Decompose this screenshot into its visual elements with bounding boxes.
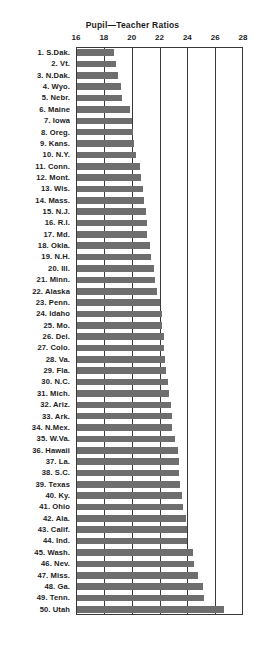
chart-title: Pupil—Teacher Ratios bbox=[60, 20, 205, 30]
bar-row-label: 34. N.Mex. bbox=[0, 422, 70, 433]
bar-row-label: 33. Ark. bbox=[0, 411, 70, 422]
bar-row: 17. Md. bbox=[0, 229, 263, 240]
bar-row: 2. Vt. bbox=[0, 58, 263, 69]
bar-row: 26. Del. bbox=[0, 331, 263, 342]
bar bbox=[77, 549, 193, 556]
bar bbox=[77, 526, 187, 533]
bar-row: 5. Nebr. bbox=[0, 92, 263, 103]
bar bbox=[77, 83, 121, 90]
bar-row: 40. Ky. bbox=[0, 490, 263, 501]
bar bbox=[77, 174, 141, 181]
bar bbox=[77, 515, 186, 522]
bar-row: 14. Mass. bbox=[0, 195, 263, 206]
bar-row-label: 22. Alaska bbox=[0, 286, 70, 297]
bar bbox=[77, 220, 147, 227]
bar-row: 45. Wash. bbox=[0, 547, 263, 558]
bar bbox=[77, 49, 114, 56]
bar-row: 28. Va. bbox=[0, 354, 263, 365]
bar-row: 23. Penn. bbox=[0, 297, 263, 308]
bar-row: 21. Minn. bbox=[0, 274, 263, 285]
bar-row: 39. Texas bbox=[0, 479, 263, 490]
x-tick-label-20: 20 bbox=[127, 33, 136, 42]
bar-row-label: 39. Texas bbox=[0, 479, 70, 490]
bar bbox=[77, 277, 155, 284]
bar-row-label: 4. Wyo. bbox=[0, 81, 70, 92]
bar bbox=[77, 345, 164, 352]
bar-row: 18. Okla. bbox=[0, 240, 263, 251]
bar bbox=[77, 242, 150, 249]
bar-row-label: 38. S.C. bbox=[0, 467, 70, 478]
bar-row-label: 46. Nev. bbox=[0, 558, 70, 569]
bar-row-label: 36. Hawaii bbox=[0, 445, 70, 456]
x-tick-label-16: 16 bbox=[72, 33, 81, 42]
bar-row: 6. Maine bbox=[0, 104, 263, 115]
bar bbox=[77, 561, 194, 568]
bar-row-label: 11. Conn. bbox=[0, 161, 70, 172]
pupil-teacher-ratios-chart: Pupil—Teacher Ratios 16182022242628 1. S… bbox=[0, 0, 263, 645]
bar-row-label: 21. Minn. bbox=[0, 274, 70, 285]
bar-row: 9. Kans. bbox=[0, 138, 263, 149]
bar-row: 8. Oreg. bbox=[0, 127, 263, 138]
bar bbox=[77, 447, 178, 454]
bar bbox=[77, 436, 175, 443]
bar bbox=[77, 231, 147, 238]
bar-row-label: 44. Ind. bbox=[0, 535, 70, 546]
bar-row: 22. Alaska bbox=[0, 286, 263, 297]
bar-row: 19. N.H. bbox=[0, 251, 263, 262]
bar-row: 50. Utah bbox=[0, 604, 263, 615]
bar-row-label: 27. Colo. bbox=[0, 342, 70, 353]
bar-row: 1. S.Dak. bbox=[0, 47, 263, 58]
bar bbox=[77, 356, 165, 363]
x-tick-label-26: 26 bbox=[211, 33, 220, 42]
bar bbox=[77, 288, 157, 295]
bar bbox=[77, 538, 187, 545]
bar-row-label: 18. Okla. bbox=[0, 240, 70, 251]
bar bbox=[77, 413, 172, 420]
bar-row-label: 35. W.Va. bbox=[0, 433, 70, 444]
bar bbox=[77, 140, 134, 147]
bar-row: 47. Miss. bbox=[0, 570, 263, 581]
bar bbox=[77, 606, 224, 613]
x-axis-tick-labels: 16182022242628 bbox=[0, 33, 263, 45]
bar bbox=[77, 322, 162, 329]
bar bbox=[77, 492, 182, 499]
bar bbox=[77, 583, 203, 590]
x-tick-label-18: 18 bbox=[99, 33, 108, 42]
bar-row-label: 42. Ala. bbox=[0, 513, 70, 524]
bar-row: 11. Conn. bbox=[0, 161, 263, 172]
bar bbox=[77, 72, 118, 79]
bar-row-label: 13. Wis. bbox=[0, 183, 70, 194]
bar bbox=[77, 265, 154, 272]
bar-row: 10. N.Y. bbox=[0, 149, 263, 160]
bar-row-label: 43. Calif. bbox=[0, 524, 70, 535]
bar-row: 37. La. bbox=[0, 456, 263, 467]
bar bbox=[77, 379, 168, 386]
bar-row: 32. Ariz. bbox=[0, 399, 263, 410]
bar bbox=[77, 208, 146, 215]
bar-row: 15. N.J. bbox=[0, 206, 263, 217]
bar-row: 44. Ind. bbox=[0, 535, 263, 546]
bar bbox=[77, 163, 140, 170]
bar bbox=[77, 129, 133, 136]
bar-row-label: 47. Miss. bbox=[0, 570, 70, 581]
bar-row: 13. Wis. bbox=[0, 183, 263, 194]
bar bbox=[77, 470, 179, 477]
bar-row-label: 19. N.H. bbox=[0, 251, 70, 262]
bar-row: 4. Wyo. bbox=[0, 81, 263, 92]
bar bbox=[77, 152, 136, 159]
x-tick-label-22: 22 bbox=[155, 33, 164, 42]
bar-row-label: 28. Va. bbox=[0, 354, 70, 365]
bar-row: 42. Ala. bbox=[0, 513, 263, 524]
bar-row: 27. Colo. bbox=[0, 342, 263, 353]
bar bbox=[77, 367, 166, 374]
bar-row-label: 20. Ill. bbox=[0, 263, 70, 274]
bar-row-label: 37. La. bbox=[0, 456, 70, 467]
bar-row-label: 29. Fla. bbox=[0, 365, 70, 376]
bar bbox=[77, 106, 130, 113]
bar-row: 31. Mich. bbox=[0, 388, 263, 399]
bar bbox=[77, 424, 172, 431]
bar-row: 16. R.I. bbox=[0, 217, 263, 228]
bar bbox=[77, 402, 171, 409]
bar-row: 3. N.Dak. bbox=[0, 70, 263, 81]
bar-row-label: 32. Ariz. bbox=[0, 399, 70, 410]
